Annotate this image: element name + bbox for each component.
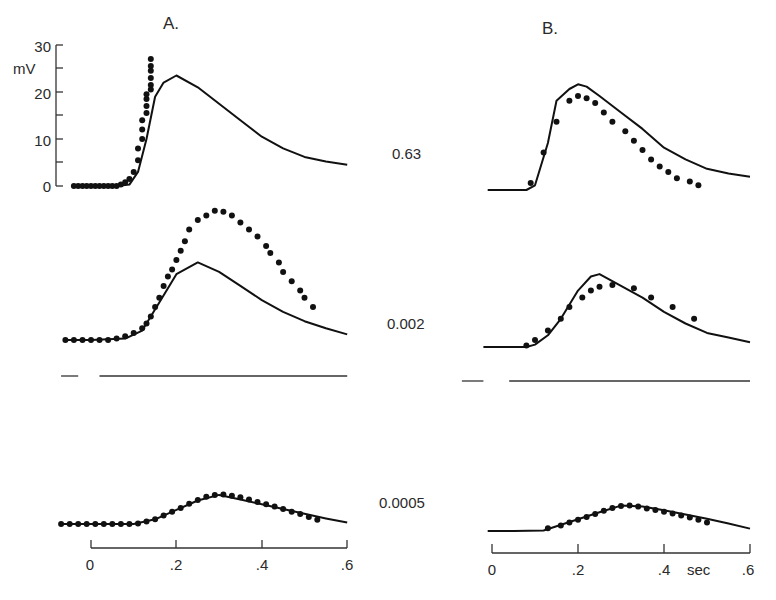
data-dot (618, 503, 624, 509)
data-dot (575, 517, 581, 523)
y-tick-20: 20 (34, 85, 51, 102)
x-tick-0-6: .6 (341, 556, 354, 573)
data-dot (212, 492, 218, 498)
x-tick-labels-panel-b: 0 .2 .4 .6 (488, 561, 754, 578)
data-dot (144, 103, 150, 109)
data-dot (62, 337, 68, 343)
data-dot (148, 82, 154, 88)
data-dot (255, 499, 261, 505)
data-dot (220, 491, 226, 497)
data-dot (631, 285, 637, 291)
data-dot (652, 507, 658, 513)
data-dot (178, 248, 184, 254)
data-dot (161, 513, 167, 519)
data-dot (280, 506, 286, 512)
data-dot (678, 513, 684, 519)
data-dot (263, 243, 269, 249)
data-dot (144, 110, 150, 116)
data-dot (186, 501, 192, 507)
data-dot (289, 278, 295, 284)
data-dot (229, 212, 235, 218)
panel-b-label: B. (542, 19, 558, 38)
condition-label-0-0005: 0.0005 (379, 494, 425, 511)
data-dot (640, 147, 646, 153)
data-dot (302, 295, 308, 301)
data-dot (280, 269, 286, 275)
data-dot (297, 511, 303, 517)
data-dot (135, 145, 141, 151)
data-dot (126, 521, 132, 527)
data-dot (297, 288, 303, 294)
data-dot (186, 227, 192, 233)
data-dot (314, 517, 320, 523)
data-dot (601, 508, 607, 514)
data-dot (101, 521, 107, 527)
data-dot (122, 333, 128, 339)
solid-trace (488, 84, 750, 190)
x-tick-0-4: .4 (256, 556, 269, 573)
data-dot (237, 220, 243, 226)
data-dot (195, 497, 201, 503)
data-dot (169, 509, 175, 515)
data-dot (203, 212, 209, 218)
data-dot (554, 119, 560, 125)
data-dot (609, 505, 615, 511)
data-dot (246, 497, 252, 503)
data-dot (523, 343, 529, 349)
data-dot (687, 179, 693, 185)
data-dot (144, 91, 150, 97)
solid-trace (74, 76, 347, 187)
data-dot (631, 138, 637, 144)
data-dot (648, 295, 654, 301)
y-axis-label: mV (13, 60, 36, 77)
data-dot (566, 304, 572, 310)
data-dot (622, 128, 628, 134)
data-dot (687, 514, 693, 520)
data-dot (131, 330, 137, 336)
data-dot (80, 337, 86, 343)
data-dot (609, 282, 615, 288)
data-dot (220, 209, 226, 215)
data-dot (263, 501, 269, 507)
data-dot (139, 325, 145, 331)
data-dot (114, 336, 120, 342)
data-dot (670, 511, 676, 517)
data-dot (695, 517, 701, 523)
data-dot (566, 98, 572, 104)
data-dot (92, 521, 98, 527)
data-dot (156, 295, 162, 301)
data-dot (306, 514, 312, 520)
data-dot (237, 494, 243, 500)
data-dot (148, 63, 154, 69)
data-dot (601, 110, 607, 116)
data-dot (584, 514, 590, 520)
data-dot (131, 169, 137, 175)
x-tick-0: 0 (86, 556, 94, 573)
data-dot (139, 127, 145, 133)
data-dot (665, 169, 671, 175)
data-dot (105, 337, 111, 343)
data-dot (144, 519, 150, 525)
data-dot (592, 100, 598, 106)
y-tick-10: 10 (34, 132, 51, 149)
data-dot (148, 56, 154, 62)
data-dot (541, 149, 547, 155)
data-dot (118, 521, 124, 527)
y-axis (56, 45, 63, 186)
traces (58, 56, 750, 531)
data-dot (152, 304, 158, 310)
x-axis-panel-b (492, 544, 750, 553)
data-dot (203, 494, 209, 500)
data-dot (272, 504, 278, 510)
solid-trace (488, 506, 750, 531)
figure: A. B. 30 20 10 0 mV 0.63 0.002 0.0005 0 … (0, 0, 776, 600)
data-dot (575, 93, 581, 99)
data-dot (627, 503, 633, 509)
data-dot (657, 164, 663, 170)
solid-trace (61, 495, 347, 524)
y-tick-labels: 30 20 10 0 (34, 38, 51, 195)
x-tick-0-2: .2 (170, 556, 183, 573)
data-dot (144, 321, 150, 327)
data-dot (597, 284, 603, 290)
data-dot (58, 521, 64, 527)
